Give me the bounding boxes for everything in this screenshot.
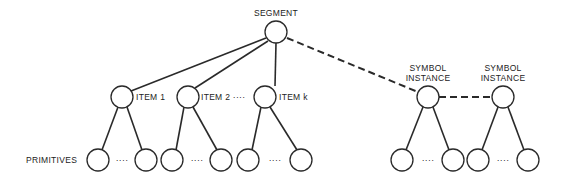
symbol-instance-1-node <box>417 86 439 108</box>
symbol1-label-line2: INSTANCE <box>406 73 451 83</box>
edge-symbol2-prim-a <box>482 107 498 150</box>
edge-itemk-prim-b <box>270 107 297 150</box>
edge-symbol2-prim-b <box>508 107 524 150</box>
symbol1-label-line1: SYMBOL <box>409 63 446 73</box>
symbol2-label-line1: SYMBOL <box>484 63 521 73</box>
primitive-node <box>135 149 157 171</box>
edge-segment-itemk <box>275 43 276 86</box>
edge-symbol1-prim-a <box>406 107 423 150</box>
segment-node <box>265 21 287 43</box>
primitive-node <box>442 149 464 171</box>
edge-segment-item2 <box>195 41 268 88</box>
primitive-node <box>467 149 489 171</box>
edge-symbol1-prim-b <box>433 107 449 150</box>
edge-itemk-prim-a <box>252 107 261 150</box>
primitive-node <box>210 149 232 171</box>
primitive-node <box>237 149 259 171</box>
primitive-node <box>161 149 183 171</box>
primitive-node <box>290 149 312 171</box>
edge-item2-prim-b <box>193 107 217 150</box>
itemk-node <box>254 86 276 108</box>
ellipsis: ···· <box>422 155 435 165</box>
symbol2-label-line2: INSTANCE <box>481 73 526 83</box>
itemk-label: ITEM k <box>279 92 308 102</box>
ellipsis: ···· <box>497 155 510 165</box>
item1-label: ITEM 1 <box>136 92 165 102</box>
edge-segment-item1 <box>131 38 266 91</box>
primitive-node <box>87 149 109 171</box>
hierarchy-diagram: SEGMENT ITEM 1 ITEM 2 ···· ITEM k SYMBOL… <box>0 0 567 183</box>
symbol-instance-2-node <box>492 86 514 108</box>
item2-label: ITEM 2 ···· <box>201 92 245 102</box>
primitive-node <box>517 149 539 171</box>
primitive-node <box>391 149 413 171</box>
item1-node <box>111 86 133 108</box>
edge-item2-prim-a <box>176 107 184 150</box>
primitives-label: PRIMITIVES <box>26 155 77 165</box>
edge-item1-prim-b <box>127 107 142 150</box>
ellipsis: ···· <box>116 155 129 165</box>
edge-item1-prim-a <box>102 107 118 150</box>
ellipsis: ···· <box>269 155 282 165</box>
ellipsis: ···· <box>191 155 204 165</box>
edge-segment-symbol1 <box>287 38 418 92</box>
item2-node <box>177 86 199 108</box>
segment-label: SEGMENT <box>254 8 298 18</box>
